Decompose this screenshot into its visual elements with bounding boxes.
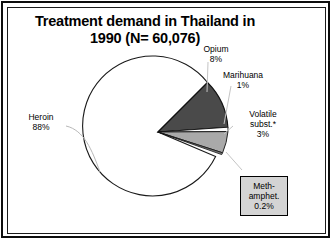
pie-label-volatile-value: 3% <box>236 129 290 139</box>
leader-line-methamphetamine <box>226 152 242 170</box>
pie-label-methamphetamine-name-2: amphet. <box>243 191 285 201</box>
pie-label-opium-name: Opium <box>196 44 236 54</box>
pie-label-volatile: Volatile subst.* 3% <box>236 109 290 139</box>
pie-label-marihuana-name: Marihuana <box>213 70 273 80</box>
pie-label-methamphetamine-value: 0.2% <box>243 201 285 211</box>
pie-label-marihuana-value: 1% <box>213 80 273 90</box>
pie-label-volatile-name-1: Volatile <box>236 109 290 119</box>
pie-label-marihuana: Marihuana 1% <box>213 70 273 90</box>
pie-label-volatile-name-2: subst.* <box>236 119 290 129</box>
pie-label-methamphetamine-box: Meth- amphet. 0.2% <box>240 176 288 216</box>
leader-line-marihuana <box>224 86 231 124</box>
pie-label-opium-value: 8% <box>196 54 236 64</box>
pie-label-opium: Opium 8% <box>196 44 236 64</box>
pie-label-heroin: Heroin 88% <box>18 112 64 132</box>
pie-label-heroin-name: Heroin <box>18 112 64 122</box>
chart-page: Treatment demand in Thailand in 1990 (N=… <box>0 0 333 241</box>
pie-label-heroin-value: 88% <box>18 122 64 132</box>
pie-label-methamphetamine-name-1: Meth- <box>243 181 285 191</box>
